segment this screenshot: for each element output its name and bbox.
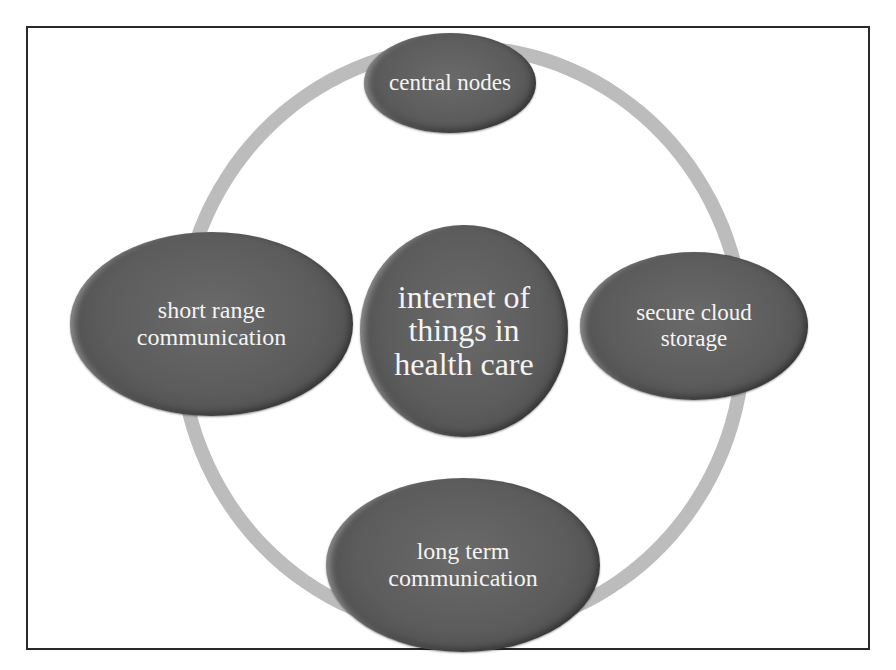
node-long-term-communication: long term communication (326, 478, 600, 652)
node-label: short range communication (137, 297, 286, 351)
node-central-nodes: central nodes (364, 33, 536, 133)
node-short-range-communication: short range communication (70, 232, 353, 416)
hub-iot-health-care: internet of things in health care (360, 225, 568, 437)
node-label: long term communication (388, 538, 537, 592)
node-label: central nodes (389, 70, 511, 96)
hub-label: internet of things in health care (394, 281, 533, 382)
node-secure-cloud-storage: secure cloud storage (580, 252, 808, 400)
node-label: secure cloud storage (636, 300, 752, 352)
